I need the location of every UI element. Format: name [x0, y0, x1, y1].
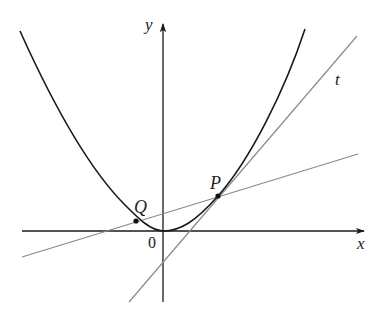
point-Q-label: Q [134, 197, 147, 217]
point-P [215, 193, 220, 198]
origin-label: 0 [148, 234, 156, 251]
parabola-tangent-diagram: y x 0 P Q t [0, 0, 373, 320]
point-P-label: P [209, 173, 221, 193]
y-axis-label: y [143, 15, 153, 34]
point-Q [133, 218, 138, 223]
x-axis-label: x [356, 234, 365, 253]
secant-line [22, 154, 358, 257]
tangent-label: t [335, 70, 341, 89]
